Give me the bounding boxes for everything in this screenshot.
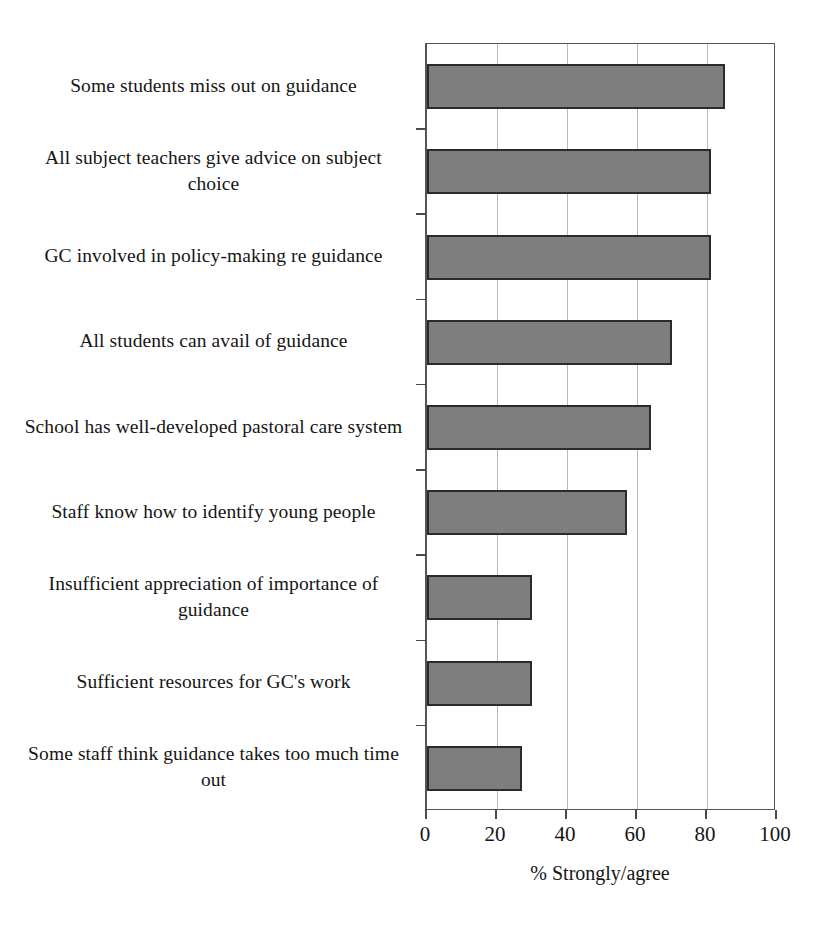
bar: [427, 661, 532, 706]
category-labels: Some students miss out on guidance All s…: [20, 43, 415, 810]
x-axis-tick: [425, 810, 427, 819]
category-label: All students can avail of guidance: [20, 328, 407, 354]
bar: [427, 64, 725, 109]
bar: [427, 490, 627, 535]
y-axis-tick: [416, 725, 426, 727]
y-axis-tick: [416, 554, 426, 556]
bar: [427, 235, 711, 280]
x-axis-tick-label: 0: [395, 822, 455, 847]
bar: [427, 149, 711, 194]
category-label: Some students miss out on guidance: [20, 73, 407, 99]
y-axis-tick: [416, 213, 426, 215]
bar: [427, 320, 672, 365]
x-axis-tick: [565, 810, 567, 819]
category-label: All subject teachers give advice on subj…: [20, 145, 407, 197]
y-axis-tick: [416, 384, 426, 386]
x-axis-tick: [635, 810, 637, 819]
category-label: Staff know how to identify young people: [20, 499, 407, 525]
y-axis-tick: [416, 299, 426, 301]
x-axis-tick-label: 60: [605, 822, 665, 847]
x-axis-tick: [495, 810, 497, 819]
category-label: School has well-developed pastoral care …: [20, 414, 407, 440]
y-axis-tick: [416, 128, 426, 130]
category-label: Sufficient resources for GC's work: [20, 669, 407, 695]
x-axis-tick-label: 100: [745, 822, 805, 847]
y-axis-tick: [416, 640, 426, 642]
category-label: Some staff think guidance takes too much…: [20, 741, 407, 793]
bar: [427, 575, 532, 620]
bar: [427, 746, 522, 791]
x-axis-tick-label: 40: [535, 822, 595, 847]
bar-chart: Some students miss out on guidance All s…: [0, 0, 832, 932]
plot-area: [425, 43, 775, 810]
category-label: GC involved in policy-making re guidance: [20, 243, 407, 269]
x-axis-tick: [705, 810, 707, 819]
category-label: Insufficient appreciation of importance …: [20, 571, 407, 623]
x-axis-tick-label: 80: [675, 822, 735, 847]
x-axis-title: % Strongly/agree: [425, 862, 775, 885]
y-axis-tick: [416, 469, 426, 471]
x-axis-tick-label: 20: [465, 822, 525, 847]
bar: [427, 405, 651, 450]
x-axis-tick: [775, 810, 777, 819]
